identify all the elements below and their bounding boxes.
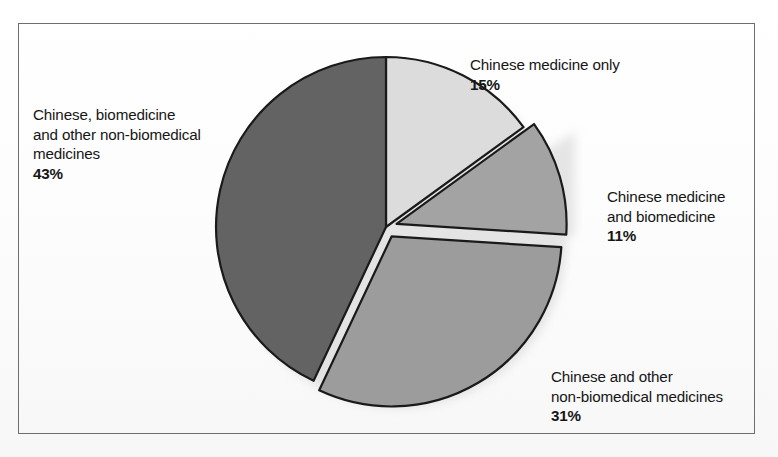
slice-label-chinese-medicine-and-biomedicine: Chinese medicine and biomedicine 11%: [607, 168, 767, 265]
chart-plot-area: Chinese, biomedicine and other non-biome…: [0, 0, 778, 457]
slice-label-chinese-biomedicine-and-other: Chinese, biomedicine and other non-biome…: [33, 86, 248, 202]
slice-label-text: Chinese medicine only: [470, 56, 620, 73]
slice-label-text: Chinese and other non-biomedical medicin…: [551, 368, 723, 404]
slice-label-chinese-and-other-non-biomedical: Chinese and other non-biomedical medicin…: [551, 348, 766, 445]
slice-percent-value: 31%: [551, 406, 766, 425]
slice-percent-value: 15%: [470, 75, 685, 94]
slice-label-text: Chinese medicine and biomedicine: [607, 188, 725, 224]
slice-label-chinese-medicine-only: Chinese medicine only 15%: [470, 36, 685, 114]
slice-label-text: Chinese, biomedicine and other non-biome…: [33, 106, 201, 162]
slice-percent-value: 11%: [607, 226, 767, 245]
slice-percent-value: 43%: [33, 164, 248, 183]
pie-chart-figure: Chinese, biomedicine and other non-biome…: [0, 0, 778, 457]
